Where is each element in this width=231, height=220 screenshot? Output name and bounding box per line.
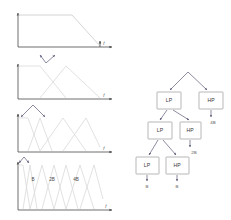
tree-node-lp-level-2-label: LP <box>157 127 164 133</box>
waveform-band-2-3 <box>40 118 86 151</box>
waveform-full-band <box>18 15 100 46</box>
edge-lp2-to-hp3 <box>163 140 176 155</box>
band-label-4b: 4B <box>73 177 79 182</box>
tree-node-hp-level-2-label: HP <box>186 127 194 133</box>
axis-label-level-1: f <box>103 92 105 97</box>
spectrum-panel-level-0: f <box>18 13 112 47</box>
filter-tree: LP HP 4B LP HP 2B <box>136 72 223 189</box>
waveform-band-2-2 <box>28 118 52 151</box>
spectrum-panel-level-1: f <box>18 64 112 99</box>
tree-node-hp-level-3[interactable]: HP <box>166 157 189 174</box>
axis-label-level-3: f <box>105 203 107 208</box>
axis-label-level-2: f <box>103 145 105 150</box>
tree-node-lp-level-3[interactable]: LP <box>136 157 159 174</box>
waveform-band-3-6 <box>66 165 94 209</box>
tree-node-hp-level-3-label: HP <box>173 162 181 168</box>
figure-canvas: f f f <box>0 0 231 220</box>
bandwidth-label-b-left: B <box>146 184 149 189</box>
tree-node-hp-level-2[interactable]: HP <box>180 122 201 139</box>
spectrum-panel-level-3: B 2B 4B f <box>18 162 112 210</box>
edge-root-to-hp1 <box>188 72 207 90</box>
spectrum-panel-level-2: f <box>18 114 112 152</box>
bandwidth-label-2b: 2B <box>191 150 196 155</box>
band-label-2b: 2B <box>49 177 55 182</box>
bandwidth-label-4b: 4B <box>210 120 215 125</box>
waveform-high-band-1 <box>40 66 100 98</box>
band-label-b: B <box>31 177 34 182</box>
tree-node-hp-level-1[interactable]: HP <box>199 92 223 109</box>
waveform-band-2-1 <box>18 118 40 151</box>
tree-node-lp-level-2[interactable]: LP <box>148 122 172 139</box>
split-marker-2 <box>19 157 29 163</box>
edge-lp1-to-lp2 <box>160 110 167 120</box>
edge-lp1-to-hp2 <box>173 110 189 120</box>
tree-node-hp-level-1-label: HP <box>207 97 215 103</box>
tree-node-lp-level-3-label: LP <box>144 162 151 168</box>
waveform-band-3-5 <box>54 165 78 209</box>
tree-node-lp-level-1-label: LP <box>166 97 173 103</box>
waveform-band-2-4 <box>63 118 100 151</box>
waveform-band-3-4 <box>42 165 66 209</box>
axis-label-level-0: f <box>103 40 105 45</box>
edge-root-to-lp1 <box>170 72 188 90</box>
waveform-low-band-1 <box>18 66 66 98</box>
split-marker-1 <box>21 105 45 117</box>
tree-node-lp-level-1[interactable]: LP <box>157 92 181 109</box>
bandwidth-label-b-right: B <box>176 184 179 189</box>
edge-lp2-to-lp3 <box>149 140 158 155</box>
split-marker-0 <box>40 55 55 63</box>
waveform-band-3-2 <box>23 165 37 209</box>
